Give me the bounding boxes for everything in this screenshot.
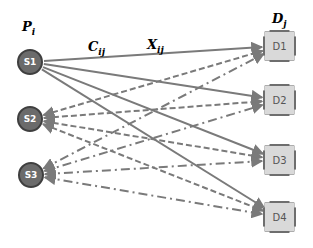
sources-header-label: Pi — [22, 20, 35, 37]
edge-s3-d3 — [45, 161, 262, 174]
destination-node-d2: D2 — [263, 84, 296, 116]
node-label: D2 — [272, 95, 286, 106]
source-node-s2: S2 — [17, 106, 43, 132]
node-label: S2 — [24, 114, 37, 124]
label-subscript: i — [32, 27, 35, 37]
node-label: D1 — [272, 41, 286, 52]
destination-node-d1: D1 — [263, 30, 296, 62]
node-label: S1 — [24, 57, 37, 67]
source-node-s3: S3 — [18, 162, 44, 188]
flow-label: Xij — [147, 38, 164, 55]
transportation-network-diagram: Pi Cij Xij Dj S1 S2 S3 D1 D2 D3 D4 — [0, 0, 313, 248]
node-label: D4 — [272, 212, 286, 223]
node-label: D3 — [272, 155, 286, 166]
source-node-s1: S1 — [17, 49, 43, 75]
label-base: X — [147, 37, 157, 52]
destination-node-d4: D4 — [263, 201, 296, 233]
label-subscript: ij — [157, 45, 164, 55]
edge-s2-d1 — [43, 51, 262, 115]
label-base: P — [22, 19, 32, 34]
destinations-header-label: Dj — [272, 12, 287, 29]
edge-s3-d4 — [45, 177, 262, 214]
cost-label: Cij — [88, 40, 105, 57]
destination-node-d3: D3 — [263, 144, 296, 176]
label-subscript: j — [283, 19, 286, 29]
label-subscript: ij — [98, 47, 105, 57]
edge-s2-d3 — [44, 121, 262, 157]
label-base: C — [88, 39, 98, 54]
node-label: S3 — [25, 170, 38, 180]
label-base: D — [272, 11, 283, 26]
